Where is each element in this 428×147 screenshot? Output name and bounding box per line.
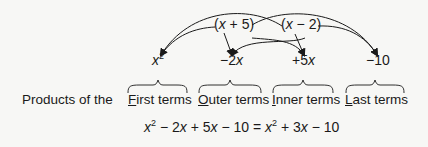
label-products-of-the: Products of the (22, 92, 113, 107)
label-outer-terms: Outer terms (198, 92, 269, 107)
label-first-terms: First terms (128, 92, 192, 107)
last-arrow-b (318, 26, 377, 55)
product-last: −10 (366, 52, 390, 68)
product-first: x2 (152, 52, 164, 68)
label-last-terms: Last terms (345, 92, 408, 107)
factor-x-minus-2: (x − 2) (281, 16, 321, 32)
label-inner-terms: Inner terms (272, 92, 340, 107)
first-arrow-a (161, 27, 215, 55)
result-equation: x2 − 2x + 5x − 10 = x2 + 3x − 10 (144, 119, 339, 135)
factor-x-plus-5: (x + 5) (214, 16, 254, 32)
product-inner: +5x (292, 52, 315, 68)
product-outer: −2x (220, 52, 243, 68)
